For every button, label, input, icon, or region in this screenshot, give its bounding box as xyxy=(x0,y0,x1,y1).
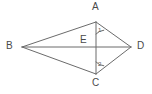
angle-label-1: 1 xyxy=(98,27,101,33)
vertex-label-A: A xyxy=(92,2,99,12)
angle-label-2: 2 xyxy=(98,61,101,67)
kite-diagram-canvas xyxy=(0,0,152,94)
segment-AD xyxy=(96,22,131,47)
vertex-label-C: C xyxy=(92,78,99,88)
vertex-label-E: E xyxy=(80,35,87,45)
vertex-label-B: B xyxy=(6,41,13,51)
segment-CB xyxy=(22,47,96,74)
vertex-label-D: D xyxy=(137,41,144,51)
geometry-figure: A B C D E 1 2 xyxy=(0,0,152,94)
